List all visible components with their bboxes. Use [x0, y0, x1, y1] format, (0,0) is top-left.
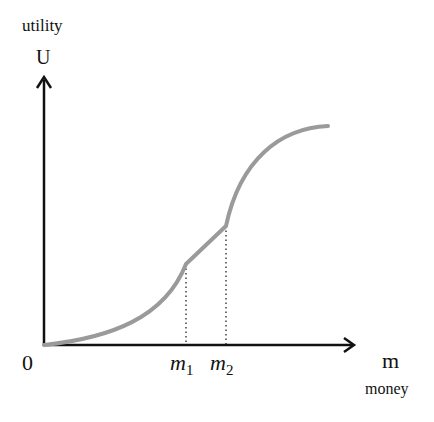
x-axis-label: money: [365, 380, 409, 398]
tick-m2-base: m: [210, 350, 226, 375]
tick-label-m1: m1: [170, 350, 193, 379]
tick-m2-sub: 2: [226, 362, 234, 378]
x-axis: [44, 338, 354, 352]
origin-label: 0: [22, 350, 33, 376]
tick-label-m2: m2: [210, 350, 233, 379]
y-axis-label: utility: [22, 16, 63, 36]
tick-m1-base: m: [170, 350, 186, 375]
utility-curve: [44, 126, 328, 345]
y-axis-symbol: U: [36, 46, 50, 69]
y-axis: [37, 77, 51, 346]
tick-m1-sub: 1: [186, 362, 194, 378]
x-axis-symbol: m: [382, 348, 399, 374]
